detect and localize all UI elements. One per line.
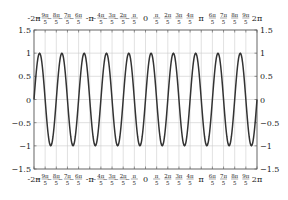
fraction-numerator: 6π: [209, 173, 216, 179]
x-tick-fraction-bottom: π5−: [125, 173, 138, 186]
y-tick-label-left: 1: [26, 49, 31, 58]
fraction-minus: −: [103, 15, 108, 21]
y-tick-label-left: 1.5: [18, 26, 31, 35]
x-tick-label-bottom: 2π: [252, 175, 262, 184]
fraction-minus: −: [92, 15, 97, 21]
fraction-denominator: 5: [233, 180, 237, 186]
fraction-minus: −: [114, 176, 119, 182]
x-tick-fraction-bottom: 4π5: [187, 173, 194, 186]
fraction-numerator: 2π: [164, 12, 171, 18]
fraction-numerator: π: [155, 12, 159, 18]
x-tick-fraction-bottom: 6π5: [209, 173, 216, 186]
x-tick-fraction-top: 9π5: [242, 12, 249, 25]
x-tick-fraction-bottom: 9π5: [242, 173, 249, 186]
y-tick-labels-left: 1.510.50−0.5−1−1.5: [12, 26, 31, 174]
fraction-minus: −: [47, 15, 52, 21]
fraction-denominator: 5: [155, 19, 159, 25]
x-tick-fraction-top: 7π5: [220, 12, 227, 25]
fraction-numerator: 9π: [242, 173, 249, 179]
x-tick-label-bottom: 0: [143, 175, 148, 184]
y-tick-label-right: 1.5: [260, 26, 273, 35]
x-tick-fraction-bottom: 2π5: [164, 173, 171, 186]
x-tick-fraction-top: π5: [153, 12, 160, 25]
fraction-denominator: 5: [133, 19, 137, 25]
x-tick-fraction-bottom: 7π5: [220, 173, 227, 186]
y-tick-label-right: −1: [260, 142, 272, 151]
y-tick-label-left: −1: [19, 142, 31, 151]
fraction-numerator: 4π: [187, 12, 194, 18]
fraction-minus: −: [125, 176, 130, 182]
fraction-denominator: 5: [155, 180, 159, 186]
fraction-minus: −: [125, 15, 130, 21]
fraction-numerator: 7π: [220, 173, 227, 179]
x-tick-fraction-top: 3π5: [175, 12, 182, 25]
y-tick-label-left: −1.5: [12, 165, 31, 174]
fraction-numerator: 6π: [75, 12, 82, 18]
fraction-numerator: 6π: [75, 173, 82, 179]
y-tick-labels-right: 1.510.50−0.5−1−1.5: [260, 26, 279, 174]
fraction-minus: −: [92, 176, 97, 182]
fraction-denominator: 5: [188, 180, 192, 186]
x-tick-fraction-bottom: 8π5: [231, 173, 238, 186]
fraction-numerator: 8π: [231, 173, 238, 179]
fraction-numerator: 7π: [220, 12, 227, 18]
x-tick-label-top: 2π: [252, 14, 262, 23]
fraction-numerator: 9π: [242, 12, 249, 18]
fraction-numerator: π: [133, 12, 137, 18]
fraction-denominator: 5: [222, 180, 226, 186]
fraction-numerator: 4π: [187, 173, 194, 179]
fraction-denominator: 5: [177, 19, 181, 25]
fraction-denominator: 5: [177, 180, 181, 186]
fraction-numerator: 3π: [175, 173, 182, 179]
x-tick-labels-top: -2π9π5−8π5−7π5−6π5−-π4π5−3π5−2π5−π5−0π52…: [27, 12, 262, 25]
fraction-minus: −: [69, 15, 74, 21]
fraction-denominator: 5: [77, 180, 81, 186]
sine-chart: 1.510.50−0.5−1−1.5 1.510.50−0.5−1−1.5 -2…: [0, 0, 288, 200]
fraction-numerator: 6π: [209, 12, 216, 18]
fraction-minus: −: [36, 176, 41, 182]
fraction-minus: −: [58, 176, 63, 182]
fraction-denominator: 5: [211, 180, 215, 186]
x-tick-fraction-top: 8π5: [231, 12, 238, 25]
y-tick-label-right: 1: [260, 49, 265, 58]
fraction-denominator: 5: [244, 180, 248, 186]
x-tick-fraction-top: 6π5−: [69, 12, 82, 25]
x-tick-fraction-top: 4π5: [187, 12, 194, 25]
y-tick-label-right: −0.5: [260, 119, 279, 128]
y-tick-label-right: 0.5: [260, 72, 273, 81]
fraction-denominator: 5: [222, 19, 226, 25]
x-tick-label-top: π: [199, 14, 204, 23]
x-tick-label-bottom: π: [199, 175, 204, 184]
fraction-denominator: 5: [233, 19, 237, 25]
x-tick-fraction-top: 2π5: [164, 12, 171, 25]
y-tick-label-left: −0.5: [12, 119, 31, 128]
fraction-denominator: 5: [211, 19, 215, 25]
x-tick-fraction-bottom: 3π5: [175, 173, 182, 186]
fraction-numerator: π: [133, 173, 137, 179]
fraction-minus: −: [47, 176, 52, 182]
fraction-minus: −: [58, 15, 63, 21]
fraction-numerator: 2π: [164, 173, 171, 179]
fraction-numerator: 3π: [175, 12, 182, 18]
x-tick-fraction-top: 6π5: [209, 12, 216, 25]
x-tick-labels-bottom: -2π9π5−8π5−7π5−6π5−-π4π5−3π5−2π5−π5−0π52…: [27, 173, 262, 186]
fraction-minus: −: [114, 15, 119, 21]
fraction-numerator: 8π: [231, 12, 238, 18]
y-tick-label-left: 0.5: [18, 72, 31, 81]
y-tick-label-right: 0: [260, 96, 265, 105]
fraction-denominator: 5: [77, 19, 81, 25]
fraction-denominator: 5: [166, 19, 170, 25]
x-tick-fraction-top: π5−: [125, 12, 138, 25]
y-tick-label-right: −1.5: [260, 165, 279, 174]
x-tick-fraction-bottom: π5: [153, 173, 160, 186]
fraction-denominator: 5: [188, 19, 192, 25]
y-tick-label-left: 0: [26, 96, 31, 105]
fraction-numerator: π: [155, 173, 159, 179]
fraction-denominator: 5: [166, 180, 170, 186]
fraction-minus: −: [103, 176, 108, 182]
fraction-denominator: 5: [244, 19, 248, 25]
fraction-minus: −: [69, 176, 74, 182]
x-tick-fraction-bottom: 6π5−: [69, 173, 82, 186]
fraction-minus: −: [36, 15, 41, 21]
x-tick-label-top: 0: [143, 14, 148, 23]
